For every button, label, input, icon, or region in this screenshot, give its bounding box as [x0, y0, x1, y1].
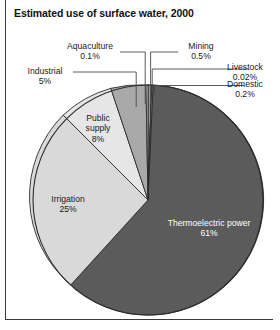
- label-aquaculture-value: 0.1%: [60, 51, 120, 61]
- pie-chart-svg: [0, 0, 280, 330]
- label-livestock-name: Livestock: [214, 62, 276, 72]
- label-thermoelectric-value: 61%: [155, 228, 263, 238]
- label-domestic-value: 0.2%: [214, 89, 276, 99]
- label-industrial-value: 5%: [18, 76, 72, 86]
- pie-chart-figure: Estimated use of surface water, 2000: [0, 0, 280, 330]
- label-public-supply-value: 8%: [74, 134, 122, 144]
- label-industrial: Industrial 5%: [18, 66, 72, 87]
- label-public-supply: Public supply 8%: [74, 113, 122, 144]
- label-public-supply-name2: supply: [74, 123, 122, 133]
- label-irrigation-value: 25%: [40, 204, 96, 214]
- label-thermoelectric-name: Thermoelectric power: [155, 218, 263, 228]
- label-irrigation-name: Irrigation: [40, 194, 96, 204]
- label-aquaculture-name: Aquaculture: [60, 41, 120, 51]
- label-aquaculture: Aquaculture 0.1%: [60, 41, 120, 62]
- label-public-supply-name: Public: [74, 113, 122, 123]
- label-irrigation: Irrigation 25%: [40, 194, 96, 215]
- label-domestic-name: Domestic: [214, 79, 276, 89]
- label-industrial-name: Industrial: [18, 66, 72, 76]
- label-mining-value: 0.5%: [180, 51, 222, 61]
- label-mining-name: Mining: [180, 41, 222, 51]
- label-thermoelectric: Thermoelectric power 61%: [155, 218, 263, 239]
- label-mining: Mining 0.5%: [180, 41, 222, 62]
- label-domestic: Domestic 0.2%: [214, 79, 276, 100]
